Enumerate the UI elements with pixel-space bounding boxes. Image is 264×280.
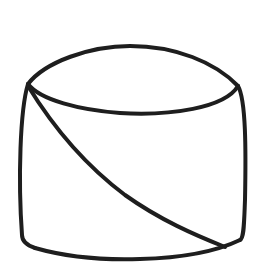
top-front-arc (28, 84, 238, 114)
cylinder-drawing (0, 0, 264, 280)
top-back-arc (28, 46, 238, 86)
bottom-arc (35, 240, 240, 259)
cylinder-illustration (0, 0, 264, 280)
left-side (20, 84, 35, 248)
right-side (238, 86, 245, 240)
